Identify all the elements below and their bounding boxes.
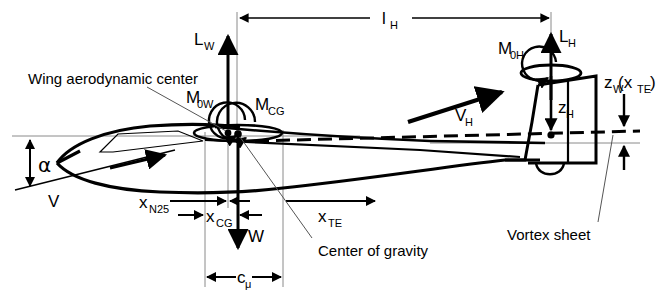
z-w-label: z xyxy=(604,73,613,92)
vortex-sheet-label: Vortex sheet xyxy=(507,226,591,243)
tail-moment-label-sub: 0H xyxy=(510,49,524,61)
z-h-label-sub: H xyxy=(566,108,574,120)
tail-arm-label: l xyxy=(382,9,386,28)
wing-aero-center-label: Wing aerodynamic center xyxy=(28,70,198,87)
z-w-arg-open: (x xyxy=(618,73,633,92)
tail-velocity-label-sub: H xyxy=(465,116,473,128)
wing-lift-label-sub: W xyxy=(204,40,215,52)
x-te-label: x xyxy=(318,207,327,226)
wing-moment-label-sub: 0W xyxy=(197,98,214,110)
glider-balance-diagram: l H L W W L H M 0W M CG M 0H xyxy=(0,0,669,297)
weight-label: W xyxy=(248,227,264,246)
alpha-label: α xyxy=(38,153,51,177)
x-cg-label-sub: CG xyxy=(216,217,233,229)
cg-moment-label-sub: CG xyxy=(268,105,285,117)
z-w-arg-sub: TE xyxy=(637,83,651,95)
tail-arm-label-sub: H xyxy=(390,19,398,31)
x-te-label-sub: TE xyxy=(328,217,342,229)
z-w-arg-close: ) xyxy=(650,73,656,92)
x-cg-label: x xyxy=(206,207,215,226)
tail-lift-label-sub: H xyxy=(568,37,576,49)
tail-reference-dot xyxy=(547,131,554,138)
c-mu-label-sub: μ xyxy=(245,278,251,290)
x-n25-label-sub: N25 xyxy=(149,203,169,215)
center-of-gravity-dot xyxy=(234,130,242,138)
x-n25-label: x xyxy=(139,193,148,212)
center-of-gravity-label: Center of gravity xyxy=(318,242,429,259)
velocity-label: V xyxy=(48,192,60,211)
wing-lift-label: L xyxy=(194,30,203,49)
